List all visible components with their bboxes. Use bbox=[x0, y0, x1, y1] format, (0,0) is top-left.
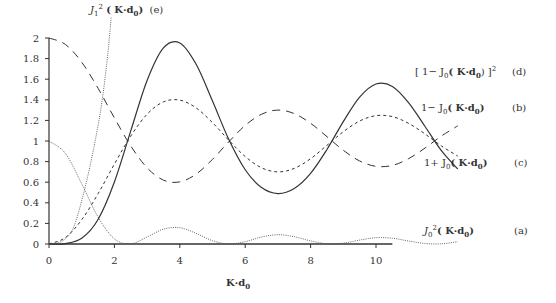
series-c bbox=[49, 38, 458, 182]
x-tick-label: 8 bbox=[307, 255, 313, 266]
curves bbox=[49, 17, 458, 244]
y-tick-label: 1.2 bbox=[23, 115, 39, 126]
label-e: J12 ( K·d0) (e) bbox=[90, 3, 163, 18]
x-tick-label: 4 bbox=[177, 255, 183, 266]
y-tick-label: 0.4 bbox=[23, 197, 39, 208]
y-tick-label: 1 bbox=[33, 136, 39, 147]
tag-b: (b) bbox=[512, 102, 526, 113]
tag-c: (c) bbox=[514, 157, 527, 168]
y-tick-label: 1.8 bbox=[23, 53, 39, 64]
bessel-chart: 00.20.40.60.811.21.41.61.820246810 bbox=[0, 0, 556, 303]
series-b bbox=[49, 100, 458, 244]
axes: 00.20.40.60.811.21.41.61.820246810 bbox=[23, 33, 392, 267]
x-tick-label: 0 bbox=[46, 255, 52, 266]
y-tick-label: 0.2 bbox=[23, 218, 39, 229]
y-tick-label: 1.6 bbox=[23, 74, 39, 85]
y-tick-label: 0 bbox=[33, 239, 39, 250]
tag-d: (d) bbox=[512, 66, 526, 77]
label-a: J02( K·d0) bbox=[424, 224, 474, 239]
label-b: 1− J0( K·d0) bbox=[421, 102, 484, 116]
x-tick-label: 10 bbox=[370, 255, 383, 266]
label-c: 1+ J0( K·d0) bbox=[424, 157, 487, 171]
y-tick-label: 2 bbox=[33, 33, 39, 44]
y-tick-label: 0.6 bbox=[23, 177, 39, 188]
y-tick-label: 0.8 bbox=[23, 156, 39, 167]
tag-a: (a) bbox=[514, 225, 528, 236]
x-tick-label: 2 bbox=[111, 255, 117, 266]
x-tick-label: 6 bbox=[242, 255, 248, 266]
series-e bbox=[49, 17, 111, 244]
x-axis-label: K·d0 bbox=[226, 277, 250, 291]
y-tick-label: 1.4 bbox=[23, 94, 39, 105]
series-d bbox=[49, 42, 458, 245]
label-d: [ 1− J0( K·d0) ]2 bbox=[415, 65, 496, 80]
